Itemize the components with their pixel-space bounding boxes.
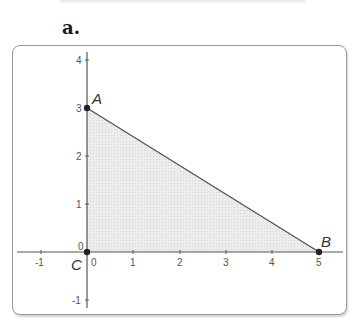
x-tick-label: 2 (177, 257, 183, 268)
point-b-label: B (321, 233, 331, 250)
coordinate-plane: -1 0 1 2 3 4 5 4 3 2 1 0 -1 A B C (0, 0, 352, 335)
y-tick-label: 0 (78, 241, 84, 252)
x-tick-label: 5 (316, 257, 322, 268)
y-tick-label: 1 (76, 199, 82, 210)
y-tick-label: -1 (72, 295, 81, 306)
x-tick-label: 1 (130, 257, 136, 268)
point-c-label: C (71, 256, 82, 273)
x-tick-label: 4 (269, 257, 275, 268)
point-a (84, 105, 90, 111)
point-a-label: A (91, 90, 102, 107)
x-tick-label: 0 (91, 257, 97, 268)
y-tick-label: 3 (76, 103, 82, 114)
point-c (84, 249, 90, 255)
x-tick-label: 3 (223, 257, 229, 268)
x-tick-label: -1 (35, 257, 44, 268)
y-tick-label: 2 (76, 151, 82, 162)
y-tick-label: 4 (76, 55, 82, 66)
